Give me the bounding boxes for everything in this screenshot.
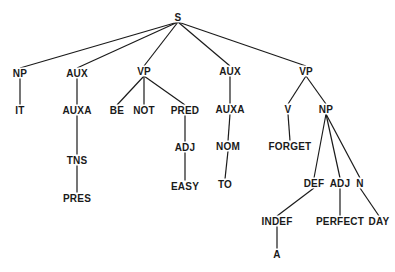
node-v: V <box>284 104 293 115</box>
node-to: TO <box>217 179 233 190</box>
node-tns: TNS <box>66 155 89 166</box>
edge-nom-to <box>225 151 228 179</box>
node-it: IT <box>14 105 25 116</box>
node-s: S <box>174 12 183 23</box>
edge-v-forget <box>288 114 290 141</box>
node-indef: INDEF <box>261 216 294 227</box>
edge-n-day <box>360 188 379 216</box>
node-vp1: VP <box>136 66 152 77</box>
node-nom: NOM <box>215 141 241 152</box>
node-n: N <box>355 178 364 189</box>
edge-s-aux1 <box>77 22 178 68</box>
edge-s-np1 <box>20 22 178 68</box>
node-pred: PRED <box>170 105 201 116</box>
node-not: NOT <box>132 105 156 116</box>
node-forget: FORGET <box>268 141 313 152</box>
edge-vp1-be <box>117 76 144 105</box>
node-day: DAY <box>368 216 391 227</box>
edge-def-indef <box>277 188 314 216</box>
node-np1: NP <box>12 68 28 79</box>
edge-vp1-pred <box>144 76 185 105</box>
edge-vp2-np2 <box>306 76 326 104</box>
edge-s-aux2 <box>178 22 230 66</box>
node-be: BE <box>109 105 125 116</box>
edge-np2-adj2 <box>326 114 340 178</box>
node-adj2: ADJ <box>329 178 352 189</box>
tree-edges-canvas <box>0 0 395 272</box>
node-auxa2: AUXA <box>214 104 245 115</box>
node-np2: NP <box>318 104 334 115</box>
node-pres: PRES <box>62 193 92 204</box>
node-perfect: PERFECT <box>315 216 365 227</box>
node-auxa1: AUXA <box>61 105 92 116</box>
edge-auxa2-nom <box>228 114 230 141</box>
edge-s-vp1 <box>144 22 178 66</box>
node-vp2: VP <box>298 66 314 77</box>
node-aux2: AUX <box>218 66 242 77</box>
node-def: DEF <box>303 178 326 189</box>
edge-s-vp2 <box>178 22 306 66</box>
edge-np2-n <box>326 114 360 178</box>
node-aux1: AUX <box>65 68 89 79</box>
edge-vp2-v <box>288 76 306 104</box>
node-a: A <box>272 249 281 260</box>
node-easy: EASY <box>170 181 200 192</box>
node-adj1: ADJ <box>174 142 197 153</box>
edge-np2-def <box>314 114 326 178</box>
